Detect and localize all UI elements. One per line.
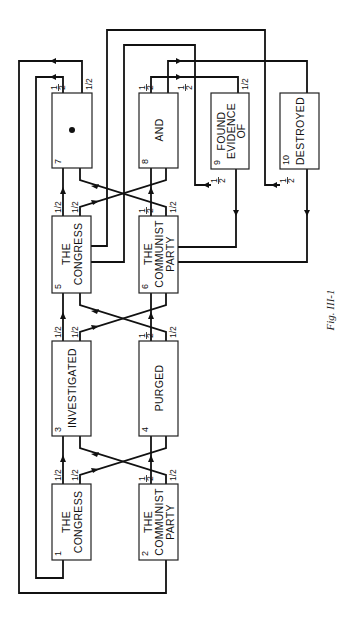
prob-label-stacked: 1 2 bbox=[209, 177, 227, 184]
box-label: THE bbox=[60, 511, 72, 533]
arrow-icon bbox=[60, 187, 66, 194]
svg-text:CONGRESS: CONGRESS bbox=[72, 223, 84, 286]
svg-text:2: 2 bbox=[57, 85, 67, 90]
box-label: CONGRESS bbox=[72, 223, 84, 286]
box-number: 4 bbox=[140, 427, 150, 432]
prob-label: 1/2 bbox=[70, 326, 80, 338]
prob-label: 1/2 bbox=[70, 201, 80, 213]
arrow-icon bbox=[176, 74, 182, 80]
arrow-icon bbox=[271, 182, 277, 188]
box-label: AND bbox=[153, 118, 165, 141]
box-label: PARTY bbox=[164, 236, 176, 272]
prob-label-stacked: 1 2 bbox=[137, 207, 155, 214]
svg-text:CONGRESS: CONGRESS bbox=[72, 491, 84, 554]
loop-5-to-10 bbox=[91, 30, 280, 246]
period-dot-icon bbox=[69, 127, 75, 133]
arrow-icon bbox=[50, 74, 56, 80]
svg-text:THE: THE bbox=[60, 243, 72, 265]
box-number: 2 bbox=[140, 551, 150, 556]
box-label: DESTROYED bbox=[294, 97, 306, 165]
svg-text:2: 2 bbox=[145, 476, 155, 481]
box-number: 9 bbox=[212, 160, 222, 165]
state-box-6: 6 THE COMMUNIST PARTY bbox=[139, 216, 178, 293]
svg-text:2: 2 bbox=[217, 178, 227, 183]
svg-text:AND: AND bbox=[153, 118, 165, 141]
svg-text:2: 2 bbox=[145, 208, 155, 213]
figure-caption: Fig. III-1 bbox=[324, 290, 336, 332]
prob-label: 1/2 bbox=[168, 469, 178, 481]
state-box-10: 10 DESTROYED bbox=[280, 93, 319, 169]
arrow-icon bbox=[176, 58, 182, 64]
svg-text:PARTY: PARTY bbox=[164, 504, 176, 540]
state-box-8: 8 AND bbox=[139, 93, 178, 168]
svg-text:PURGED: PURGED bbox=[153, 365, 165, 412]
svg-text:INVESTIGATED: INVESTIGATED bbox=[66, 348, 78, 428]
arrow-icon bbox=[304, 210, 310, 216]
state-box-1: 1 THE CONGRESS bbox=[52, 484, 91, 560]
prob-label: 1/2 bbox=[70, 469, 80, 481]
arrow-icon bbox=[148, 312, 154, 319]
box-label: PURGED bbox=[153, 365, 165, 412]
box-number: 7 bbox=[53, 159, 63, 164]
arrow-icon bbox=[60, 455, 66, 462]
svg-text:THE: THE bbox=[60, 511, 72, 533]
prob-label: 1/2 bbox=[168, 201, 178, 213]
box-number: 10 bbox=[281, 155, 291, 165]
link-9-to-6 bbox=[178, 169, 236, 247]
arrow-icon bbox=[148, 187, 154, 194]
svg-text:2: 2 bbox=[145, 333, 155, 338]
box-label: THE bbox=[60, 243, 72, 265]
svg-text:DESTROYED: DESTROYED bbox=[294, 97, 306, 165]
prob-label: 1/2 bbox=[53, 201, 63, 213]
box-label: CONGRESS bbox=[72, 491, 84, 554]
prob-label-stacked: 1 2 bbox=[137, 332, 155, 339]
box-number: 3 bbox=[53, 427, 63, 432]
prob-label-stacked: 1 2 bbox=[176, 84, 194, 91]
prob-label-stacked: 1 2 bbox=[278, 177, 296, 184]
svg-text:2: 2 bbox=[184, 85, 194, 90]
state-box-9: 9 FOUND EVIDENCE OF bbox=[211, 93, 249, 169]
box-number: 8 bbox=[140, 159, 150, 164]
box-number: 5 bbox=[53, 284, 63, 289]
prob-label: 1/2 bbox=[53, 326, 63, 338]
box-number: 1 bbox=[53, 551, 63, 556]
finite-state-diagram: 1 THE CONGRESS 2 THE COMMUNIST PARTY 3 I… bbox=[0, 0, 352, 621]
box-label: PARTY bbox=[164, 504, 176, 540]
state-box-4: 4 PURGED bbox=[139, 341, 178, 436]
arrow-icon bbox=[233, 210, 239, 216]
svg-text:2: 2 bbox=[145, 85, 155, 90]
box-label: OF bbox=[235, 123, 247, 138]
state-box-5: 5 THE CONGRESS bbox=[52, 216, 91, 293]
svg-text:2: 2 bbox=[286, 178, 296, 183]
box-number: 6 bbox=[140, 284, 150, 289]
prob-label: 1/2 bbox=[53, 469, 63, 481]
state-box-2: 2 THE COMMUNIST PARTY bbox=[139, 484, 178, 560]
prob-label-stacked: 1 2 bbox=[49, 84, 67, 91]
state-box-3: 3 INVESTIGATED bbox=[52, 341, 91, 436]
svg-text:PARTY: PARTY bbox=[164, 236, 176, 272]
arrow-icon bbox=[148, 455, 154, 462]
prob-label: 1/2 bbox=[84, 78, 94, 90]
prob-label: 1/2 bbox=[240, 78, 250, 90]
state-box-7: 7 bbox=[52, 93, 92, 168]
box-label: INVESTIGATED bbox=[66, 348, 78, 428]
prob-label-stacked: 1 2 bbox=[137, 84, 155, 91]
svg-text:OF: OF bbox=[235, 123, 247, 138]
arrow-icon bbox=[60, 312, 66, 319]
prob-label-stacked: 1 2 bbox=[137, 475, 155, 482]
arrow-icon bbox=[50, 58, 56, 64]
prob-label: 1/2 bbox=[168, 326, 178, 338]
